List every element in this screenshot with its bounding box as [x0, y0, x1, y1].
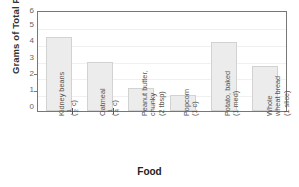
x-tick-label-amount: (2 tbsp) — [158, 71, 166, 116]
x-tick-label-amount: (14 c) — [108, 88, 121, 116]
x-tick-potato: Potato, baked (1 med) — [211, 114, 237, 172]
x-tick-label-amount: (1 c) — [191, 89, 199, 116]
y-tick-0: 0 — [30, 103, 34, 111]
x-tick-peanut-butter: Peanut butter, chunky (2 tbsp) — [128, 114, 154, 172]
x-axis-tick-labels: Kidney beans (12 c) Oatmeal (14 c) Peanu… — [37, 114, 287, 172]
x-tick-label-amount: (1 slice) — [283, 76, 291, 116]
y-tick-4: 4 — [30, 37, 34, 45]
x-tick-label-amount: (12 c) — [66, 72, 79, 116]
x-tick-popcorn: Popcorn (1 c) — [170, 114, 196, 172]
x-tick-label-amount: (1 med) — [233, 71, 241, 116]
x-tick-kidney-beans: Kidney beans (12 c) — [45, 114, 71, 172]
x-axis-title: Food — [0, 166, 299, 177]
fiber-bar-chart: Grams of Total Fiber 0 1 2 3 4 5 6 Kidne… — [0, 0, 299, 187]
y-tick-5: 5 — [30, 21, 34, 29]
y-axis-tick-labels: 0 1 2 3 4 5 6 — [22, 5, 34, 117]
x-tick-wheat-bread: Whole wheat bread (1 slice) — [253, 114, 279, 172]
y-tick-3: 3 — [30, 54, 34, 62]
x-tick-oatmeal: Oatmeal (14 c) — [86, 114, 112, 172]
y-tick-6: 6 — [30, 7, 34, 15]
